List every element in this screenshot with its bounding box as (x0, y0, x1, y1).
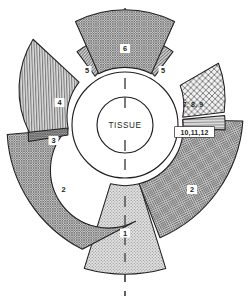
sector-label-3: 3 (51, 136, 55, 145)
sector-label-1: 1 (123, 229, 127, 238)
tissue-label: TISSUE (108, 121, 141, 130)
sector-label-2-right: 2 (190, 185, 194, 194)
radial-diagram-svg: TISSUE 1 2 2 3 4 5 5 6 7, 8, 9 10,11,12 (0, 0, 251, 302)
sector-4[interactable] (17, 38, 81, 133)
sector-label-5-right: 5 (161, 66, 165, 75)
figure-canvas: TISSUE 1 2 2 3 4 5 5 6 7, 8, 9 10,11,12 (0, 0, 251, 302)
sector-label-6: 6 (123, 44, 127, 53)
sector-label-10-11-12: 10,11,12 (180, 129, 208, 137)
sector-label-2-left: 2 (61, 185, 65, 194)
sector-7-8-9[interactable] (179, 63, 225, 117)
sector-label-5-left: 5 (85, 66, 89, 75)
sector-label-7-8-9: 7, 8, 9 (183, 101, 204, 109)
